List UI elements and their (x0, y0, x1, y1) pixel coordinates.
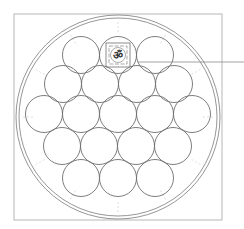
small-circle (63, 37, 100, 74)
small-circle (155, 128, 192, 165)
small-circle (100, 160, 137, 197)
small-circle (26, 96, 63, 133)
small-circle (63, 96, 100, 133)
tick-mark (192, 69, 202, 75)
small-circle (44, 128, 81, 165)
small-circle (174, 96, 211, 133)
tick-mark (192, 160, 202, 166)
tick-mark (34, 160, 44, 166)
om-symbol-icon: ॐ (113, 49, 123, 62)
small-circle (137, 37, 174, 74)
square-frame (14, 14, 222, 220)
tick-mark (34, 69, 44, 75)
small-circle (100, 96, 137, 133)
circle-packing-diagram: ॐ (0, 0, 244, 229)
small-circle (137, 96, 174, 133)
small-circle (63, 160, 100, 197)
small-circle (118, 128, 155, 165)
small-circle (137, 160, 174, 197)
outer-ring (16, 15, 220, 219)
om-medallion: ॐ (106, 43, 130, 67)
small-circle (81, 128, 118, 165)
